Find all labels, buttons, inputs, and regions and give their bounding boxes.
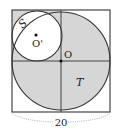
label-o: O bbox=[64, 49, 72, 60]
dimension-arc-right bbox=[68, 113, 110, 122]
center-o-point bbox=[59, 59, 62, 62]
center-o-prime-point bbox=[34, 33, 37, 36]
label-side-length: 20 bbox=[55, 117, 68, 128]
geometry-diagram: S O' O T 20 bbox=[0, 0, 117, 135]
dimension-arc-left bbox=[12, 113, 54, 122]
label-o-prime: O' bbox=[32, 38, 43, 49]
